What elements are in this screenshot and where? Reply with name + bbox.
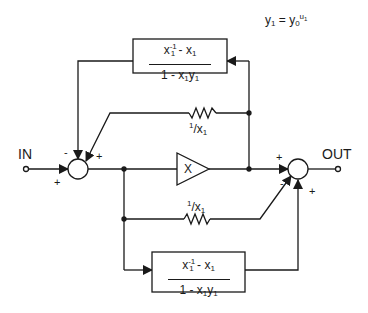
output-label: OUT	[322, 147, 352, 161]
top-filter-fraction-bar	[149, 64, 211, 65]
equation-label: y1 = y0u1	[265, 13, 307, 28]
bottom-resistor	[184, 214, 210, 224]
bottom-filter-label: x-11 - x1 1 - x1y1	[152, 255, 245, 301]
equation-eq: = y	[275, 13, 295, 27]
top-resistor	[189, 108, 216, 118]
right-summer-minus-sign: -	[280, 178, 284, 189]
input-label: IN	[18, 147, 32, 161]
right-summer-plus-sign-input: +	[276, 152, 282, 163]
input-terminal	[24, 167, 29, 172]
top-filter-numerator: x-11 - x1	[133, 40, 227, 61]
bottom-filter-denominator: 1 - x1y1	[152, 283, 245, 301]
left-summing-junction	[68, 159, 88, 179]
equation-exp: u1	[300, 12, 308, 21]
top-filter-output-wire	[78, 61, 133, 159]
equation-exp-sub: 1	[304, 16, 307, 22]
bottom-resistor-wire-right	[210, 176, 291, 219]
bottom-filter-output-wire	[245, 180, 298, 270]
output-terminal	[336, 167, 341, 172]
left-summer-plus-sign-input: +	[54, 177, 60, 188]
top-resistor-label: 1/x1	[189, 122, 207, 137]
bottom-filter-numerator: x-11 - x1	[152, 255, 245, 276]
right-summer-plus-sign-bottom: +	[309, 186, 315, 197]
amplifier-triangle	[177, 153, 209, 185]
top-filter-denominator: 1 - x1y1	[133, 68, 227, 86]
bottom-filter-fraction-bar	[168, 279, 230, 280]
left-summer-minus-sign: -	[64, 147, 68, 158]
left-summer-plus-sign-top: +	[96, 151, 102, 162]
top-filter-label: x-11 - x1 1 - x1y1	[133, 40, 227, 86]
amplifier-label: X	[184, 163, 192, 175]
bottom-resistor-label: 1/x1	[187, 200, 205, 215]
